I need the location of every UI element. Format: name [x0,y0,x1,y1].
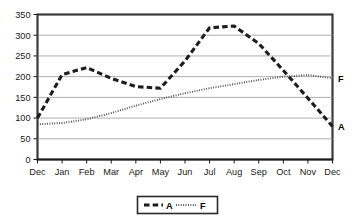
y-tick-label: 100 [15,113,30,123]
y-tick-label: 50 [20,134,30,144]
x-tick-label: Dec [324,167,341,177]
chart-canvas: 050100150200250300350 DecJanFebMarAprMay… [0,0,355,219]
y-tick-label: 150 [15,93,30,103]
line-chart: 050100150200250300350 DecJanFebMarAprMay… [0,0,355,219]
y-tick-label: 0 [25,155,30,165]
x-tick-label: Oct [276,167,291,177]
series-a-end-label: A [338,122,345,132]
legend-label-a: A [166,201,173,211]
x-tick-label: Mar [103,167,119,177]
legend: A F [138,197,218,214]
x-tick-label: Sep [251,167,267,177]
y-axis-tick-labels: 050100150200250300350 [15,10,30,165]
x-tick-label: Jan [55,167,70,177]
x-tick-label: May [152,167,170,177]
x-tick-label: Jul [204,167,216,177]
y-tick-label: 350 [15,10,30,20]
x-tick-label: Jun [178,167,193,177]
y-tick-label: 300 [15,31,30,41]
x-axis-tick-labels: DecJanFebMarAprMayJunJulAugSepOctNovDec [29,167,341,177]
x-tick-label: Nov [300,167,317,177]
x-tick-label: Feb [79,167,95,177]
series-f-end-label: F [338,74,344,84]
legend-label-f: F [200,201,206,211]
plot-area-frame [38,15,333,160]
x-tick-label: Apr [129,167,143,177]
x-tick-label: Dec [29,167,46,177]
y-tick-label: 250 [15,51,30,61]
x-tick-label: Aug [226,167,242,177]
y-tick-label: 200 [15,72,30,82]
